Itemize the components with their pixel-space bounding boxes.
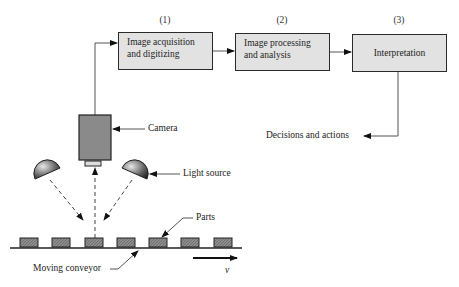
light-ray-left <box>50 180 83 220</box>
light-source-label: Light source <box>183 168 231 179</box>
light-ray-right <box>104 180 132 220</box>
stage-3-number: (3) <box>379 15 419 25</box>
light-source-right-icon <box>122 160 148 179</box>
decisions-label: Decisions and actions <box>266 130 349 141</box>
stage-interpretation: Interpretation <box>352 34 447 72</box>
parts-label: Parts <box>196 212 215 223</box>
stage-1-label-line2: and digitizing <box>127 48 212 60</box>
part <box>181 238 199 247</box>
parts-label-arrow <box>162 218 193 237</box>
parts-group <box>20 238 232 247</box>
stage-image-processing: Image processing and analysis <box>235 33 330 71</box>
stage-1-number: (1) <box>145 15 185 25</box>
camera-to-acquisition-arrow <box>95 43 117 115</box>
stage-image-acquisition: Image acquisition and digitizing <box>118 32 213 70</box>
camera-icon <box>79 115 111 166</box>
stage-2-label-line1: Image processing <box>244 37 329 49</box>
part <box>214 238 232 247</box>
part <box>85 238 103 247</box>
part <box>149 238 167 247</box>
stage-2-number: (2) <box>262 15 302 25</box>
stage-3-label: Interpretation <box>374 47 426 59</box>
stage-1-label-line1: Image acquisition <box>127 36 212 48</box>
part <box>20 238 38 247</box>
part <box>117 238 135 247</box>
conveyor-label: Moving conveyor <box>33 263 101 274</box>
conveyor-label-arrow <box>110 251 138 269</box>
interpretation-to-decisions-arrow <box>364 71 398 136</box>
velocity-label: v <box>225 265 229 276</box>
camera-label: Camera <box>148 123 178 134</box>
stage-2-label-line2: and analysis <box>244 49 329 61</box>
part <box>52 238 70 247</box>
light-source-left-icon <box>34 160 60 179</box>
